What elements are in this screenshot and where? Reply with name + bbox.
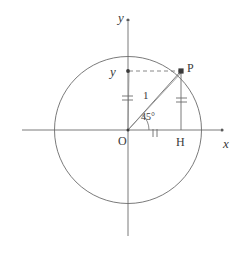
point-marker-y-foot (126, 69, 130, 73)
x-axis-arrow-icon (220, 128, 223, 131)
point-marker-O (127, 129, 130, 132)
diagram-canvas (0, 0, 250, 256)
y-axis-arrow-icon (126, 18, 129, 21)
y-coordinate-label: y (110, 65, 116, 78)
y-axis-label: y (118, 11, 124, 24)
radius-length-label: 1 (143, 90, 149, 101)
origin-label: O (118, 135, 127, 147)
tick-marks-segment-PH (176, 98, 187, 102)
tick-marks-vertical-left (122, 96, 133, 100)
point-label-P: P (187, 62, 194, 74)
angle-label-45: 45° (141, 112, 155, 122)
point-marker-P (178, 68, 183, 73)
x-axis-label: x (223, 137, 229, 150)
geometry-figure: y x y P O H 1 45° (0, 0, 250, 256)
point-label-H: H (176, 136, 185, 148)
